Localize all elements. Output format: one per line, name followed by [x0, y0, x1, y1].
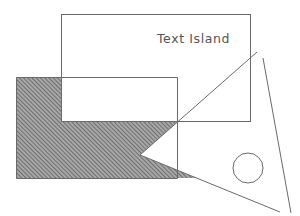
text-island-label: Text Island [156, 31, 230, 46]
diagram-canvas: Text Island [0, 0, 300, 216]
hatched-region [16, 77, 196, 179]
diagonal-line [263, 58, 291, 213]
hatched-shape [16, 77, 196, 178]
circle-shape [233, 153, 263, 183]
